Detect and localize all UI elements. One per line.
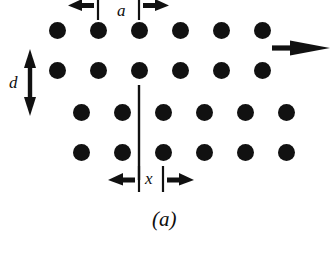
atom xyxy=(155,144,172,161)
dislocation-lattice-figure: a d x (a) xyxy=(0,0,334,267)
dimension-x-shaft xyxy=(119,178,135,183)
atom xyxy=(49,62,66,79)
shear-arrow-shaft xyxy=(272,45,294,50)
lattice-spacing-label: a xyxy=(117,2,126,19)
dimension-a-arrowhead xyxy=(155,0,169,11)
dimension-a-arrowhead xyxy=(68,0,82,11)
row-spacing-label: d xyxy=(9,74,18,91)
atom xyxy=(278,104,295,121)
atom xyxy=(73,144,90,161)
shift-label: x xyxy=(145,170,153,187)
atom xyxy=(172,62,189,79)
atom xyxy=(114,104,131,121)
dimension-x-shaft xyxy=(167,178,183,183)
atom xyxy=(90,62,107,79)
dimension-d-arrowhead-down xyxy=(24,97,36,116)
atom xyxy=(131,62,148,79)
shear-arrow-head xyxy=(290,41,330,56)
dimension-x-arrowhead xyxy=(179,173,194,186)
atom xyxy=(254,22,271,39)
atom xyxy=(172,22,189,39)
dimension-a-shaft xyxy=(78,3,94,8)
atom xyxy=(213,22,230,39)
atom xyxy=(155,104,172,121)
atom xyxy=(90,22,107,39)
atom xyxy=(196,104,213,121)
dimension-d-arrowhead-up xyxy=(24,49,36,68)
atom xyxy=(254,62,271,79)
dimension-d-shaft xyxy=(28,59,32,106)
atom xyxy=(114,144,131,161)
atom xyxy=(237,144,254,161)
atom xyxy=(278,144,295,161)
dimension-x-arrowhead xyxy=(108,173,123,186)
atom xyxy=(213,62,230,79)
atom xyxy=(73,104,90,121)
atom xyxy=(49,22,66,39)
atom xyxy=(131,22,148,39)
figure-caption: (a) xyxy=(152,207,177,232)
dimension-a-shaft xyxy=(143,3,159,8)
atom xyxy=(237,104,254,121)
atom xyxy=(196,144,213,161)
